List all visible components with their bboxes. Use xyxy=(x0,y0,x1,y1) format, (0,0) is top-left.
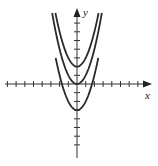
y-axis-arrow-icon xyxy=(74,8,81,17)
y-axis-label: y xyxy=(82,6,88,18)
coordinate-plane: x y xyxy=(0,0,158,166)
x-axis-label: x xyxy=(144,89,150,101)
x-axis-arrow-icon xyxy=(143,81,152,88)
